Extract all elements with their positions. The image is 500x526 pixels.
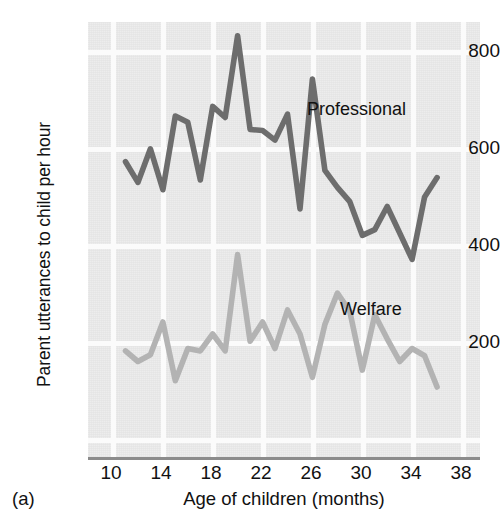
y-tick-label-400: 400 [428, 234, 500, 256]
x-tick-label-34: 34 [391, 462, 431, 484]
figure-container: Parent utterances to child per hour 800 … [0, 0, 500, 526]
x-tick-label-22: 22 [241, 462, 281, 484]
line-professional [126, 36, 438, 260]
x-tick-label-30: 30 [341, 462, 381, 484]
series-label-welfare: Welfare [340, 299, 402, 320]
x-tick-label-38: 38 [441, 462, 481, 484]
series-layer [0, 0, 500, 526]
line-welfare [126, 255, 438, 387]
x-tick-label-10: 10 [91, 462, 131, 484]
x-axis-title: Age of children (months) [88, 488, 480, 510]
x-axis-line [88, 457, 480, 460]
x-tick-label-14: 14 [141, 462, 181, 484]
x-tick-label-26: 26 [291, 462, 331, 484]
x-tick-label-18: 18 [191, 462, 231, 484]
y-tick-label-600: 600 [428, 137, 500, 159]
y-tick-label-200: 200 [428, 331, 500, 353]
series-label-professional: Professional [307, 99, 406, 120]
y-tick-label-800: 800 [428, 40, 500, 62]
panel-letter: (a) [12, 488, 35, 510]
